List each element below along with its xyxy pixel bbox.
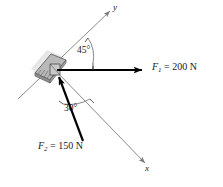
force-f2-magnitude: 150 [58, 140, 73, 151]
angle-30-label: 30° [64, 104, 77, 114]
angle-45-label: 45° [77, 46, 90, 56]
force-f1-magnitude: 200 [172, 61, 187, 72]
y-axis-line [18, 11, 110, 99]
force-f2-label: F2 = 150 N [38, 141, 83, 153]
force-diagram-canvas [0, 0, 223, 187]
force-diagram-figure: y x 45° 30° F1 = 200 N F2 = 150 N [0, 0, 223, 187]
force-f2-unit: N [76, 140, 83, 151]
x-axis-label: x [145, 164, 149, 173]
angle-45-tick-upper [85, 38, 88, 42]
force-f1-unit: N [190, 61, 197, 72]
y-axis-label: y [113, 3, 117, 12]
angle-30-tick-left [59, 101, 63, 104]
force-f1-label: F1 = 200 N [152, 62, 197, 74]
angle-30-tick-right [90, 99, 94, 103]
